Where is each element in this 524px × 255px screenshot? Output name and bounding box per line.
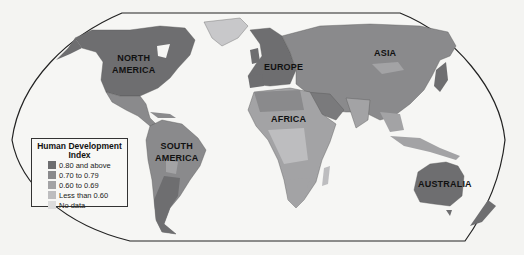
world-map (0, 0, 524, 255)
label-north-america: NORTH AMERICA (112, 52, 155, 76)
legend: Human Development Index 0.80 and above 0… (31, 138, 128, 207)
iberia (248, 74, 264, 88)
label-australia: AUSTRALIA (418, 178, 472, 190)
legend-item: No data (48, 200, 123, 210)
legend-swatch (48, 161, 56, 169)
legend-item: 0.60 to 0.69 (48, 180, 123, 190)
north-africa (254, 90, 304, 112)
legend-swatch (48, 191, 56, 199)
label-africa: AFRICA (271, 113, 306, 125)
legend-item: 0.80 and above (48, 160, 123, 170)
legend-title: Human Development Index (36, 142, 123, 160)
legend-item: Less than 0.60 (48, 190, 123, 200)
legend-swatch (48, 171, 56, 179)
legend-swatch (48, 201, 56, 209)
legend-swatch (48, 181, 56, 189)
label-europe: EUROPE (264, 61, 303, 73)
legend-item: 0.70 to 0.79 (48, 170, 123, 180)
label-south-america: SOUTH AMERICA (155, 140, 198, 164)
label-asia: ASIA (374, 47, 396, 59)
